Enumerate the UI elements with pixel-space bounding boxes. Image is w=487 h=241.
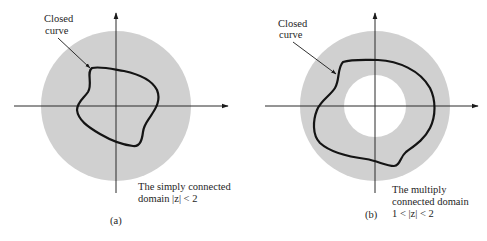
- domain-label-b-line2: connected domain: [392, 196, 469, 207]
- domain-label-a-line1: The simply connected: [138, 181, 231, 192]
- domain-label-a-line2: domain |z| < 2: [138, 193, 197, 204]
- panel-a: Closed curve The simply connected domain…: [14, 13, 231, 227]
- domain-label-b-line3: 1 < |z| < 2: [392, 208, 434, 219]
- complex-domain-figure: Closed curve The simply connected domain…: [0, 0, 487, 241]
- curve-label-a-line1: Closed: [44, 13, 74, 24]
- curve-label-a-line2: curve: [45, 25, 69, 36]
- caption-a: (a): [110, 215, 122, 227]
- curve-label-b-line1: Closed: [278, 18, 308, 29]
- caption-b: (b): [365, 209, 378, 221]
- domain-label-b-line1: The multiply: [392, 184, 447, 195]
- panel-b: Closed curve The multiply connected doma…: [265, 13, 478, 221]
- curve-label-b-line2: curve: [279, 29, 303, 40]
